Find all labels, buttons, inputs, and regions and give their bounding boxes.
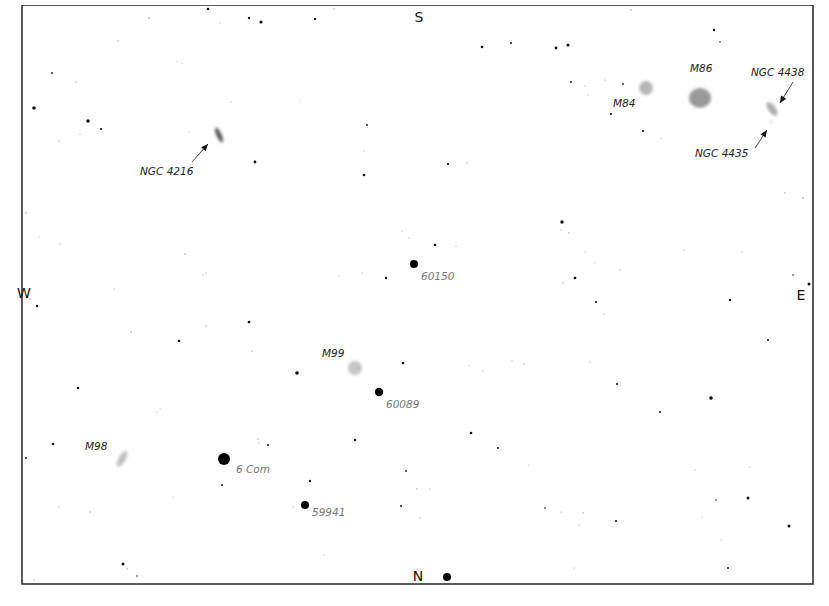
field-star <box>544 507 546 509</box>
galaxy-glow <box>639 81 653 95</box>
galaxy-label: NGC 4216 <box>140 165 194 177</box>
field-star <box>314 18 316 20</box>
field-star <box>258 442 259 443</box>
field-star <box>400 505 402 507</box>
field-star <box>528 464 529 465</box>
field-star <box>713 29 715 31</box>
field-star <box>808 283 811 286</box>
bright-star <box>443 573 451 581</box>
field-star <box>568 232 569 233</box>
field-star <box>466 162 467 163</box>
field-star <box>660 137 661 138</box>
field-star <box>178 340 181 343</box>
field-star <box>79 133 80 134</box>
field-star <box>481 46 484 49</box>
field-star <box>802 197 803 198</box>
field-star <box>36 305 38 307</box>
field-star <box>33 579 34 580</box>
field-star <box>470 432 473 435</box>
field-star <box>659 411 661 413</box>
galaxy-glow <box>689 88 711 108</box>
field-star <box>741 251 742 252</box>
field-star <box>113 288 114 289</box>
galaxy-glow <box>348 361 362 375</box>
field-star <box>419 517 420 518</box>
field-star <box>51 72 53 74</box>
field-star <box>338 275 339 276</box>
field-star <box>727 567 729 569</box>
field-star <box>603 313 604 314</box>
field-star <box>683 249 684 250</box>
field-star <box>560 229 561 230</box>
star-label: 60150 <box>421 270 455 282</box>
field-star <box>447 163 449 165</box>
field-star <box>117 40 118 41</box>
field-star <box>747 497 750 500</box>
field-star <box>59 243 60 244</box>
star-label: 59941 <box>312 506 345 518</box>
field-star <box>594 262 595 263</box>
field-star <box>595 301 597 303</box>
field-star <box>416 488 417 489</box>
field-star <box>354 439 356 441</box>
galaxy-glow <box>770 121 773 124</box>
field-star <box>156 411 157 412</box>
star-chart: M84M86NGC 4438NGC 4435NGC 4216M99M98 601… <box>0 0 829 606</box>
field-star <box>701 516 702 517</box>
field-star <box>589 361 590 362</box>
field-star <box>401 230 402 231</box>
field-star <box>295 371 299 375</box>
galaxy-label: M99 <box>322 347 345 359</box>
field-star <box>615 520 617 522</box>
field-star <box>86 119 89 122</box>
field-star <box>58 506 59 507</box>
field-star <box>251 350 252 351</box>
field-star <box>248 321 251 324</box>
field-star <box>562 282 563 283</box>
field-star <box>582 512 583 513</box>
field-star <box>729 299 731 301</box>
field-star <box>570 81 572 83</box>
field-star <box>230 101 231 102</box>
galaxy-label: M98 <box>85 440 108 452</box>
field-star <box>25 457 27 459</box>
field-star <box>257 438 258 439</box>
field-star <box>248 17 250 19</box>
field-star <box>361 272 362 273</box>
field-star <box>25 212 26 213</box>
field-star <box>363 174 366 177</box>
cardinal-north: N <box>413 568 423 584</box>
field-star <box>52 443 55 446</box>
field-star <box>77 387 80 390</box>
field-star <box>323 554 324 555</box>
field-star <box>333 8 334 9</box>
field-star <box>181 62 182 63</box>
field-star <box>610 113 612 115</box>
star-label: 6 Com <box>236 463 270 475</box>
field-star <box>221 484 223 486</box>
field-star <box>205 325 206 326</box>
field-star <box>405 470 407 472</box>
field-star <box>719 41 721 43</box>
field-star <box>205 272 206 273</box>
field-star <box>259 20 262 23</box>
field-star <box>267 444 269 446</box>
field-star <box>172 496 173 497</box>
galaxy-label: NGC 4438 <box>751 66 805 78</box>
field-star <box>511 360 512 361</box>
field-star <box>159 408 160 409</box>
field-star <box>604 79 605 80</box>
galaxy-label: NGC 4435 <box>695 147 749 159</box>
field-star <box>573 567 574 568</box>
bright-star <box>410 260 418 268</box>
field-star <box>767 339 769 341</box>
field-star <box>749 466 750 467</box>
star-north-star <box>443 573 451 581</box>
field-star <box>385 277 387 279</box>
field-star <box>788 525 791 528</box>
field-star <box>184 253 185 254</box>
cardinal-east: E <box>797 287 806 303</box>
field-star <box>366 124 368 126</box>
bright-star <box>218 453 230 465</box>
clipped-caption-strip <box>0 0 829 5</box>
